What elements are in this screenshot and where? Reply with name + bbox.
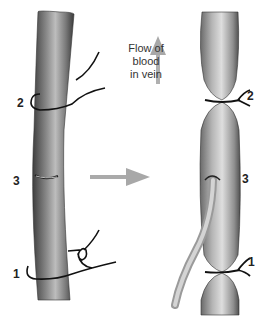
vein-right-top bbox=[200, 12, 238, 100]
flow-label-line-3: in vein bbox=[116, 68, 176, 81]
flow-label: Flow of blood in vein bbox=[116, 42, 176, 81]
direction-arrow-icon bbox=[90, 168, 150, 186]
label-2-right: 2 bbox=[247, 90, 254, 102]
label-3-right: 3 bbox=[242, 173, 249, 185]
flow-label-line-2: blood bbox=[116, 55, 176, 68]
flow-label-line-1: Flow of bbox=[116, 42, 176, 55]
label-2-left: 2 bbox=[17, 97, 24, 109]
vein-left bbox=[33, 11, 74, 300]
vein-right-bottom bbox=[201, 273, 239, 315]
label-3-left: 3 bbox=[13, 175, 20, 187]
label-1-left: 1 bbox=[13, 268, 20, 280]
vein-right-mid bbox=[200, 102, 240, 272]
label-1-right: 1 bbox=[248, 256, 255, 268]
